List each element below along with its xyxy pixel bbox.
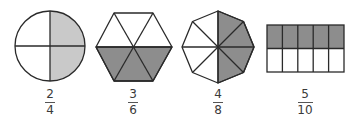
fraction-label-circle: 2 4 bbox=[35, 88, 65, 117]
numerator: 2 bbox=[46, 87, 54, 101]
fraction-label-hexagon: 3 6 bbox=[118, 88, 148, 117]
circle-figure bbox=[15, 11, 85, 81]
octagon-figure bbox=[182, 11, 254, 83]
hexagon-shaded-half bbox=[96, 47, 172, 81]
fraction-label-octagon: 4 8 bbox=[203, 88, 233, 117]
rectangle-figure bbox=[267, 25, 344, 72]
denominator: 6 bbox=[129, 103, 137, 117]
denominator: 4 bbox=[46, 103, 54, 117]
hexagon-figure bbox=[96, 13, 172, 81]
numerator: 3 bbox=[129, 87, 137, 101]
denominator: 10 bbox=[297, 103, 312, 117]
rectangle-shaded-row bbox=[267, 25, 344, 49]
numerator: 5 bbox=[301, 87, 309, 101]
fraction-label-rectangle: 5 10 bbox=[290, 88, 320, 117]
numerator: 4 bbox=[214, 87, 222, 101]
denominator: 8 bbox=[214, 103, 222, 117]
